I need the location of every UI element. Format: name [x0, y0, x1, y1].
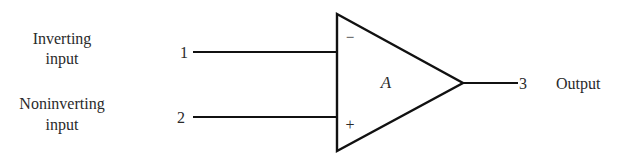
gain-label: A — [380, 73, 392, 92]
output-label: Output — [556, 75, 601, 93]
inverting-input-label-line2: input — [46, 50, 79, 68]
noninverting-sign: + — [345, 116, 354, 133]
pin-3-number: 3 — [519, 75, 527, 92]
pin-1-number: 1 — [180, 44, 188, 61]
op-amp-diagram: Inverting input Noninverting input 1 2 −… — [0, 0, 643, 157]
noninverting-input-label: Noninverting input — [19, 95, 104, 134]
noninverting-input-label-line1: Noninverting — [19, 95, 104, 113]
noninverting-input-label-line2: input — [46, 116, 79, 134]
inverting-sign: − — [346, 29, 354, 45]
inverting-input-label-line1: Inverting — [33, 30, 92, 48]
pin-2-number: 2 — [177, 109, 185, 126]
inverting-input-label: Inverting input — [33, 30, 92, 68]
amplifier-triangle — [337, 14, 463, 151]
